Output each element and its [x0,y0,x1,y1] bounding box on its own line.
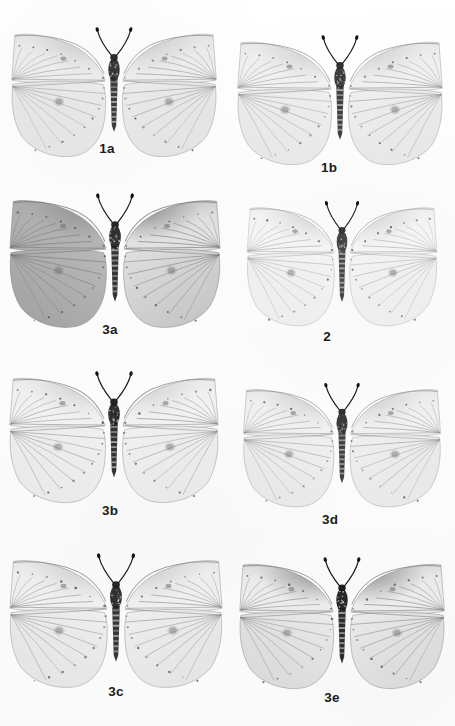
figure-label: 3e [324,690,339,705]
forewing [12,34,106,83]
left-wing-group [12,34,106,157]
specimen-illustration [236,378,448,512]
forewing [350,208,437,255]
hindwing [238,89,332,164]
forewing [350,390,440,437]
specimen-cell [232,552,452,694]
figure-label: 3a [102,322,117,337]
forewing [10,201,106,252]
hindwing [244,435,334,507]
specimen-illustration [232,552,452,694]
specimen-illustration [240,196,444,331]
hindwing [348,89,442,164]
forewing [238,42,332,91]
forewing [10,561,107,612]
right-wing-group [350,390,441,507]
forewing [240,564,334,614]
hindwing [122,81,216,156]
hindwing [350,253,437,326]
specimen-illustration [230,30,450,170]
hindwing [10,609,107,687]
specimen-cell [2,366,226,508]
forewing [123,34,217,83]
hindwing [10,249,106,327]
right-wing-group [350,564,444,688]
hindwing [350,435,440,507]
specimen-illustration [2,366,226,508]
left-wing-group [247,208,334,326]
specimen-cell [240,196,444,331]
right-wing-group [123,378,219,502]
left-wing-group [238,42,332,165]
specimen-illustration [2,548,230,693]
specimen-cell [230,30,450,170]
specimen-cell [2,548,230,693]
forewing [349,42,443,91]
forewing [125,561,222,612]
figure-label: 3c [108,684,123,699]
hindwing [240,612,334,688]
right-wing-group [350,208,437,326]
specimen-plate: 1a1b3a23b3d3c3e [0,0,455,726]
right-wing-group [124,201,220,328]
left-wing-group [10,561,107,688]
forewing [123,378,218,428]
hindwing [10,426,105,502]
hindwing [12,81,106,156]
specimen-illustration [2,188,228,333]
specimen-cell [2,188,228,333]
forewing [351,564,445,614]
forewing [124,201,220,252]
left-wing-group [10,378,106,502]
hindwing [350,612,444,688]
figure-label: 2 [323,329,331,344]
right-wing-group [348,42,442,165]
forewing [243,390,333,437]
left-wing-group [10,201,106,328]
specimen-cell [236,378,448,512]
left-wing-group [243,390,334,507]
left-wing-group [240,564,334,688]
hindwing [125,609,222,687]
right-wing-group [122,34,216,157]
figure-label: 1a [99,141,114,156]
forewing [10,378,105,428]
hindwing [123,426,218,502]
figure-label: 1b [321,160,337,175]
forewing [247,208,334,255]
hindwing [124,249,220,327]
figure-label: 3d [322,512,338,527]
hindwing [247,253,334,326]
figure-label: 3b [102,503,118,518]
right-wing-group [125,561,222,688]
